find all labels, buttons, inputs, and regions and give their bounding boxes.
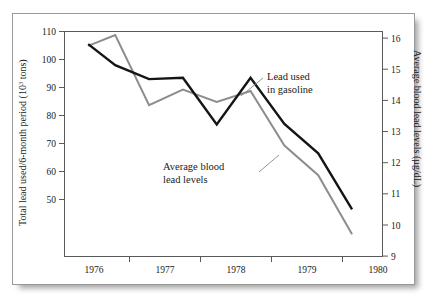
figure-root: 110 100 90 80 70 60 50 Total lead used/6… <box>0 0 439 306</box>
x-tick-label-1979: 1979 <box>298 265 317 275</box>
right-tick-label-9: 9 <box>391 252 396 262</box>
series-line-average-blood-lead-levels <box>88 35 352 234</box>
right-axis-ticks <box>383 38 389 256</box>
left-tick-label-100: 100 <box>42 55 57 65</box>
left-axis-title-post: tons) <box>17 59 29 82</box>
x-tick-label-1977: 1977 <box>156 265 175 275</box>
x-axis: 1976 1977 1978 1979 1980 <box>64 257 388 276</box>
left-axis-ticks <box>59 32 65 200</box>
x-axis-ticks <box>130 257 343 263</box>
right-tick-label-10: 10 <box>391 221 401 231</box>
blood-lead-leader-line <box>259 155 279 172</box>
line-chart: 110 100 90 80 70 60 50 Total lead used/6… <box>0 0 439 306</box>
right-tick-label-13: 13 <box>391 127 401 137</box>
left-axis-tick-labels: 110 100 90 80 70 60 50 <box>42 27 57 205</box>
x-tick-label-1978: 1978 <box>227 265 246 275</box>
right-tick-label-12: 12 <box>391 158 401 168</box>
left-axis: 110 100 90 80 70 60 50 Total lead used/6… <box>17 27 384 256</box>
x-tick-label-1976: 1976 <box>85 265 104 275</box>
x-axis-tick-labels: 1976 1977 1978 1979 1980 <box>85 265 388 275</box>
right-tick-label-14: 14 <box>391 96 401 106</box>
right-tick-label-16: 16 <box>391 34 401 44</box>
series-line-lead-used-in-gasoline <box>88 44 352 209</box>
left-tick-label-60: 60 <box>47 167 57 177</box>
blood-lead-annotation-line1: Average blood <box>163 161 225 172</box>
right-tick-label-15: 15 <box>391 65 401 75</box>
right-axis-title: Average blood lead levels (µg/dL) <box>411 50 423 187</box>
left-tick-label-110: 110 <box>42 27 56 37</box>
left-axis-title-pre: Total lead used/6-month period (10 <box>17 85 29 226</box>
lead-used-annotation-line2: in gasoline <box>267 84 313 95</box>
left-axis-title: Total lead used/6-month period (103 tons… <box>17 59 30 226</box>
left-tick-label-70: 70 <box>47 139 57 149</box>
lead-used-annotation-line1: Lead used <box>267 71 311 82</box>
right-axis-tick-labels: 16 15 14 13 12 11 10 9 <box>391 34 401 262</box>
left-tick-label-50: 50 <box>47 195 57 205</box>
left-tick-label-80: 80 <box>47 111 57 121</box>
left-tick-label-90: 90 <box>47 83 57 93</box>
right-axis: 16 15 14 13 12 11 10 9 Average blood lea… <box>383 31 424 262</box>
blood-lead-annotation-line2: lead levels <box>163 174 208 185</box>
right-tick-label-11: 11 <box>391 189 400 199</box>
x-tick-label-1980: 1980 <box>369 265 388 275</box>
blood-lead-annotation: Average blood lead levels <box>163 155 279 185</box>
